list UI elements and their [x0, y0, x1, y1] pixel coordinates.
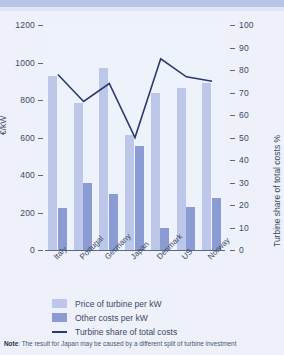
legend-label-price: Price of turbine per kW	[75, 299, 161, 309]
header-band-light	[0, 7, 284, 11]
left-tick-mark	[38, 175, 43, 176]
legend-label-other: Other costs per kW	[75, 313, 148, 323]
left-tick-label: 0	[2, 245, 35, 255]
right-tick-mark	[230, 25, 235, 26]
right-tick-label: 90	[239, 43, 249, 53]
right-tick-mark	[230, 115, 235, 116]
legend-item-share: Turbine share of total costs	[52, 325, 242, 338]
right-tick-label: 20	[239, 200, 249, 210]
chart-figure: 020040060080010001200 010203040506070809…	[0, 0, 284, 355]
note-prefix: Note	[4, 340, 18, 347]
left-tick-mark	[38, 63, 43, 64]
right-tick-mark	[230, 93, 235, 94]
right-tick-mark	[230, 70, 235, 71]
plot-area	[45, 25, 225, 250]
right-tick-label: 80	[239, 65, 249, 75]
right-tick-label: 40	[239, 155, 249, 165]
left-tick-label: 1200	[2, 20, 35, 30]
left-tick-mark	[38, 250, 43, 251]
right-tick-label: 30	[239, 178, 249, 188]
chart-legend: Price of turbine per kW Other costs per …	[52, 297, 242, 339]
note-text: The result for Japan may be caused by a …	[22, 340, 237, 347]
right-tick-mark	[230, 228, 235, 229]
left-tick-label: 800	[2, 95, 35, 105]
left-axis-title: €/kW	[0, 116, 8, 135]
right-tick-mark	[230, 138, 235, 139]
legend-swatch-icon-price	[52, 299, 67, 308]
right-tick-label: 100	[239, 20, 254, 30]
right-tick-mark	[230, 250, 235, 251]
left-tick-label: 1000	[2, 58, 35, 68]
legend-swatch-icon-other	[52, 313, 67, 322]
left-tick-mark	[38, 213, 43, 214]
right-tick-label: 70	[239, 88, 249, 98]
line-series	[45, 25, 225, 250]
right-axis-title: Turbine share of total costs %	[272, 135, 282, 247]
right-tick-label: 0	[239, 245, 244, 255]
right-tick-label: 60	[239, 110, 249, 120]
turbine-share-line	[58, 59, 212, 138]
right-tick-label: 50	[239, 133, 249, 143]
legend-line-icon-share	[52, 331, 67, 333]
left-tick-mark	[38, 138, 43, 139]
right-tick-label: 10	[239, 223, 249, 233]
right-tick-mark	[230, 48, 235, 49]
legend-item-other: Other costs per kW	[52, 311, 242, 324]
chart-note: Note: The result for Japan may be caused…	[4, 340, 280, 348]
category-labels: ItalyPortugalGermanyJapanDenmarkUSNorway	[45, 252, 225, 297]
left-tick-mark	[38, 100, 43, 101]
header-band	[0, 0, 284, 7]
left-tick-mark	[38, 25, 43, 26]
legend-item-price: Price of turbine per kW	[52, 297, 242, 310]
right-tick-mark	[230, 160, 235, 161]
left-tick-label: 400	[2, 170, 35, 180]
left-tick-label: 200	[2, 208, 35, 218]
right-tick-mark	[230, 205, 235, 206]
right-tick-mark	[230, 183, 235, 184]
legend-label-share: Turbine share of total costs	[75, 327, 177, 337]
